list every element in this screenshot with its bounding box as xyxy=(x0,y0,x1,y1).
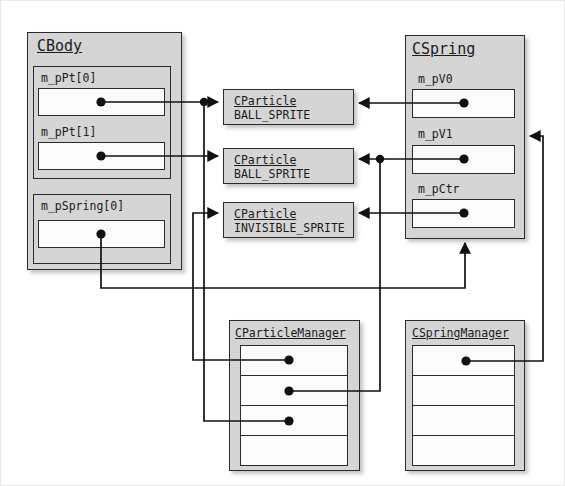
cspring-member-label-2: m_pCtr xyxy=(418,182,460,196)
cbody-slot-ppt0[interactable] xyxy=(38,88,165,116)
cparticle-object-1[interactable]: CParticle BALL_SPRITE xyxy=(223,148,354,184)
cspringmanager-slot-3[interactable] xyxy=(412,435,515,466)
cparticle-sprite-2: INVISIBLE_SPRITE xyxy=(234,221,353,236)
cspring-slot-pv1[interactable] xyxy=(412,145,515,174)
cspring-slot-pctr[interactable] xyxy=(412,199,515,228)
cparticle-object-2[interactable]: CParticle INVISIBLE_SPRITE xyxy=(223,202,354,238)
cbody-member-label-0: m_pPt[0] xyxy=(41,71,96,85)
cbody-member-label-2: m_pSpring[0] xyxy=(41,199,124,213)
cspring-slot-pv0[interactable] xyxy=(412,89,515,118)
cparticle-title-1: CParticle xyxy=(234,153,353,167)
dot-branch-particle1-right xyxy=(376,155,384,163)
cparticlemanager-slot-1[interactable] xyxy=(240,375,348,406)
cspringmanager-slot-2[interactable] xyxy=(412,405,515,436)
cparticlemanager-slot-2[interactable] xyxy=(240,405,348,436)
diagram-canvas: CBody m_pPt[0] m_pPt[1] m_pSpring[0] CSp… xyxy=(0,0,565,486)
cparticle-sprite-0: BALL_SPRITE xyxy=(234,108,353,123)
cspring-title: CSpring xyxy=(412,40,475,58)
cparticle-sprite-1: BALL_SPRITE xyxy=(234,167,353,182)
cparticle-title-0: CParticle xyxy=(234,94,353,108)
cparticlemanager-slot-0[interactable] xyxy=(240,345,348,376)
cparticlemanager-slot-3[interactable] xyxy=(240,435,348,466)
cbody-member-label-1: m_pPt[1] xyxy=(41,125,96,139)
cspring-member-label-1: m_pV1 xyxy=(418,127,453,141)
cspringmanager-slot-0[interactable] xyxy=(412,345,515,376)
cbody-title: CBody xyxy=(37,37,82,55)
cbody-slot-ppt1[interactable] xyxy=(38,142,165,170)
cparticlemanager-title: CParticleManager xyxy=(235,326,346,340)
cbody-slot-pspring0[interactable] xyxy=(38,220,165,248)
cparticle-title-2: CParticle xyxy=(234,207,353,221)
cspringmanager-slot-1[interactable] xyxy=(412,375,515,406)
cspring-member-label-0: m_pV0 xyxy=(418,72,453,86)
cspringmanager-title: CSpringManager xyxy=(412,326,509,340)
cparticle-object-0[interactable]: CParticle BALL_SPRITE xyxy=(223,89,354,125)
dot-branch-particle0-left xyxy=(200,98,208,106)
